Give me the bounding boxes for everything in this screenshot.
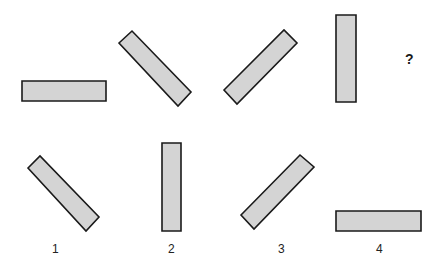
option-shape-1[interactable] xyxy=(28,156,99,231)
option-label-3: 3 xyxy=(278,242,285,256)
sequence-shape-3 xyxy=(224,30,297,104)
sequence-shape-1 xyxy=(22,81,106,101)
option-label-2: 2 xyxy=(168,242,175,256)
option-shape-3[interactable] xyxy=(241,155,314,229)
sequence-row: ? xyxy=(22,15,414,106)
question-mark: ? xyxy=(405,51,414,67)
sequence-shape-2 xyxy=(119,31,191,106)
sequence-shape-4 xyxy=(336,15,356,102)
option-label-4: 4 xyxy=(376,242,383,256)
puzzle-canvas: ? 1 2 3 4 xyxy=(0,0,442,268)
option-shape-4[interactable] xyxy=(336,211,421,231)
option-label-1: 1 xyxy=(52,242,59,256)
options-row: 1 2 3 4 xyxy=(28,143,421,256)
option-shape-2[interactable] xyxy=(162,143,181,231)
